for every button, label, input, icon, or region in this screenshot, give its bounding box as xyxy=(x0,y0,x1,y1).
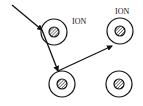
ion-4 xyxy=(106,71,132,97)
path-segment-3-arrow xyxy=(58,46,112,71)
ion-core-icon xyxy=(57,79,67,89)
ion-2 xyxy=(107,18,133,44)
scattering-diagram: ION ION xyxy=(0,0,143,106)
ion-2-label: ION xyxy=(115,7,129,16)
ion-core-icon xyxy=(115,26,125,36)
path-segment-1-arrow xyxy=(12,5,42,30)
electron-path xyxy=(12,5,112,71)
ion-core-icon xyxy=(114,79,124,89)
ion-core-icon xyxy=(49,27,59,37)
ion-1-label: ION xyxy=(72,17,86,26)
ion-3 xyxy=(49,71,75,97)
ion-1 xyxy=(41,19,67,45)
